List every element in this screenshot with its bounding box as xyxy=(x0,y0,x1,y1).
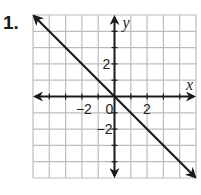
x-tick-label: −2 xyxy=(76,101,92,117)
coordinate-graph: −2022−2xy xyxy=(0,0,201,195)
y-tick-label: −2 xyxy=(97,121,113,137)
x-tick-label: 0 xyxy=(106,101,114,117)
y-axis-label: y xyxy=(121,14,131,32)
y-tick-label: 2 xyxy=(103,56,111,72)
x-tick-label: 2 xyxy=(143,101,151,117)
x-axis-label: x xyxy=(185,76,193,93)
